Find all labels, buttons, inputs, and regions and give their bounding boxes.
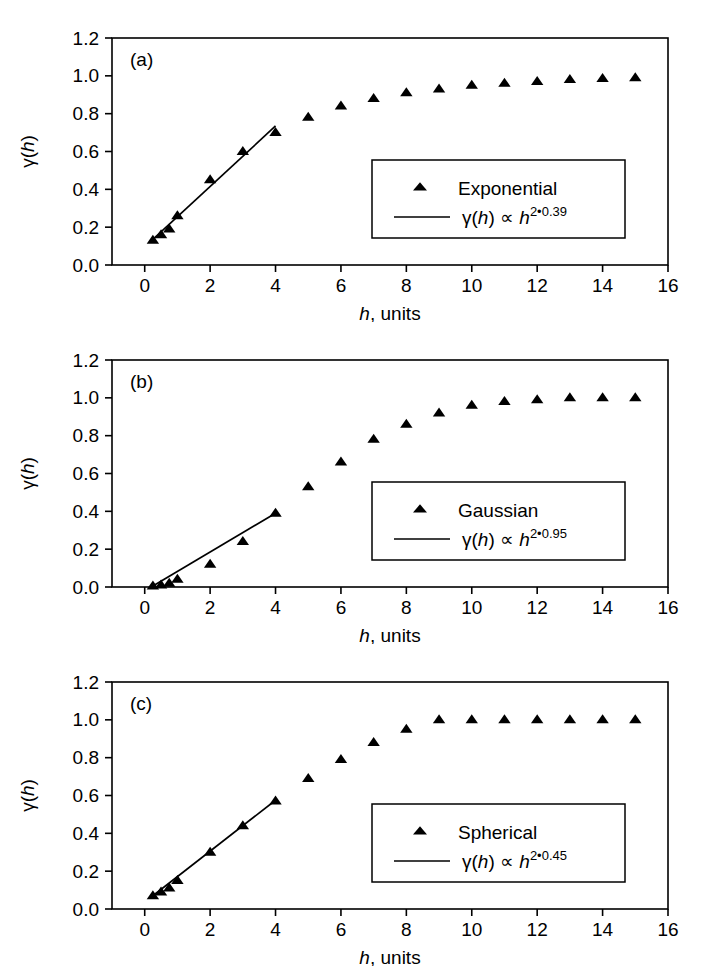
y-tick-label: 1.0	[73, 709, 99, 730]
data-point	[400, 724, 412, 733]
data-point	[204, 174, 216, 183]
data-point	[596, 73, 608, 82]
y-tick-label: 0.2	[73, 217, 99, 238]
x-tick-label: 14	[592, 919, 614, 940]
data-point	[367, 737, 379, 746]
panel-tag: (b)	[130, 371, 153, 392]
data-point	[596, 392, 608, 401]
y-tick-label: 0.4	[73, 179, 100, 200]
x-axis-title: h, units	[359, 625, 420, 644]
data-point	[433, 83, 445, 92]
data-point	[400, 419, 412, 428]
data-point	[367, 93, 379, 102]
y-tick-label: 0.8	[73, 103, 99, 124]
panel-b: 0.00.20.40.60.81.01.20246810121416h, uni…	[0, 322, 716, 644]
x-tick-label: 2	[205, 275, 216, 296]
data-point	[564, 392, 576, 401]
data-point	[466, 714, 478, 723]
y-tick-label: 0.0	[73, 899, 99, 920]
x-tick-label: 16	[657, 597, 678, 618]
x-tick-label: 2	[205, 597, 216, 618]
data-point	[400, 87, 412, 96]
legend-marker-label: Exponential	[458, 178, 557, 199]
data-point	[204, 559, 216, 568]
y-axis-title: γ(h)	[17, 457, 38, 490]
y-tick-label: 1.0	[73, 387, 99, 408]
panel-tag: (c)	[130, 693, 152, 714]
x-tick-label: 6	[336, 597, 347, 618]
y-tick-label: 1.2	[73, 28, 99, 49]
data-point	[466, 400, 478, 409]
legend: Sphericalγ(h) ∝ h2•0.45	[372, 804, 625, 882]
x-tick-label: 16	[657, 919, 678, 940]
y-tick-label: 0.8	[73, 425, 99, 446]
data-point	[466, 80, 478, 89]
data-point	[629, 714, 641, 723]
y-tick-label: 0.6	[73, 463, 99, 484]
y-tick-label: 0.2	[73, 861, 99, 882]
data-point	[564, 74, 576, 83]
data-point	[335, 457, 347, 466]
legend: Gaussianγ(h) ∝ h2•0.95	[372, 482, 625, 560]
panel-c: 0.00.20.40.60.81.01.20246810121416h, uni…	[0, 644, 716, 966]
x-tick-label: 12	[527, 919, 548, 940]
panel-a: 0.00.20.40.60.81.01.20246810121416h, uni…	[0, 0, 716, 322]
data-point	[433, 714, 445, 723]
data-point	[302, 481, 314, 490]
y-tick-label: 1.2	[73, 672, 99, 693]
data-point	[498, 714, 510, 723]
y-tick-label: 0.8	[73, 747, 99, 768]
x-tick-label: 6	[336, 275, 347, 296]
x-axis-title: h, units	[359, 947, 420, 966]
x-tick-label: 2	[205, 919, 216, 940]
y-tick-label: 1.2	[73, 350, 99, 371]
data-point	[596, 714, 608, 723]
data-point	[237, 146, 249, 155]
data-point	[531, 76, 543, 85]
y-tick-label: 0.4	[73, 823, 100, 844]
data-point	[302, 773, 314, 782]
data-point	[302, 112, 314, 121]
svg-text:γ(h): γ(h)	[17, 779, 38, 812]
y-tick-label: 0.6	[73, 785, 99, 806]
x-tick-label: 0	[139, 919, 150, 940]
y-tick-label: 0.6	[73, 141, 99, 162]
data-point	[498, 396, 510, 405]
y-tick-label: 0.0	[73, 577, 99, 598]
fit-line	[153, 513, 276, 586]
data-point	[269, 796, 281, 805]
data-point	[269, 127, 281, 136]
y-tick-label: 0.4	[73, 501, 100, 522]
data-point	[629, 72, 641, 81]
x-tick-label: 10	[461, 597, 482, 618]
x-tick-label: 16	[657, 275, 678, 296]
data-point	[433, 407, 445, 416]
x-tick-label: 14	[592, 275, 614, 296]
x-tick-label: 6	[336, 919, 347, 940]
x-tick-label: 8	[401, 597, 412, 618]
legend: Exponentialγ(h) ∝ h2•0.39	[372, 160, 625, 238]
x-tick-label: 12	[527, 597, 548, 618]
data-point	[629, 392, 641, 401]
data-point	[335, 101, 347, 110]
data-point	[171, 574, 183, 583]
data-point	[269, 508, 281, 517]
x-tick-label: 0	[139, 597, 150, 618]
x-axis-title: h, units	[359, 303, 420, 322]
x-tick-label: 8	[401, 275, 412, 296]
data-point	[335, 754, 347, 763]
data-point	[367, 434, 379, 443]
data-point	[498, 78, 510, 87]
data-point	[564, 714, 576, 723]
svg-text:γ(h): γ(h)	[17, 457, 38, 490]
legend-marker-label: Gaussian	[458, 500, 538, 521]
data-point	[171, 210, 183, 219]
x-tick-label: 4	[270, 275, 281, 296]
legend-marker-label: Spherical	[458, 822, 537, 843]
x-tick-label: 10	[461, 919, 482, 940]
svg-text:γ(h): γ(h)	[17, 135, 38, 168]
x-tick-label: 0	[139, 275, 150, 296]
y-axis-title: γ(h)	[17, 779, 38, 812]
y-tick-label: 0.2	[73, 539, 99, 560]
